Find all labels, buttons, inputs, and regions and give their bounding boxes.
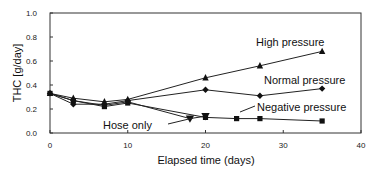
annotation-negative-pressure: Negative pressure bbox=[257, 101, 346, 113]
square-marker-icon bbox=[125, 100, 130, 105]
negative-pressure-pointer bbox=[240, 106, 255, 112]
square-marker-icon bbox=[71, 98, 76, 103]
y-tick-label: 0.6 bbox=[26, 57, 38, 66]
diamond-marker-icon bbox=[319, 85, 325, 91]
annotation-normal-pressure: Normal pressure bbox=[264, 74, 345, 86]
y-axis-label: THC [g/day] bbox=[11, 44, 23, 103]
square-marker-icon bbox=[47, 91, 52, 96]
square-marker-icon bbox=[234, 116, 239, 121]
y-tick-label: 1.0 bbox=[26, 9, 38, 18]
diamond-marker-icon bbox=[202, 87, 208, 93]
x-tick-label: 0 bbox=[48, 141, 53, 150]
diamond-marker-icon bbox=[257, 93, 263, 99]
x-tick-label: 30 bbox=[279, 141, 288, 150]
y-tick-label: 0.8 bbox=[26, 33, 38, 42]
x-tick-label: 20 bbox=[201, 141, 210, 150]
chart: 0102030400.00.20.40.60.81.0 High pressur… bbox=[0, 0, 372, 180]
series-annotations: High pressureNormal pressureNegative pre… bbox=[103, 36, 346, 131]
x-tick-label: 40 bbox=[357, 141, 366, 150]
y-tick-label: 0.2 bbox=[26, 105, 38, 114]
x-tick-label: 10 bbox=[123, 141, 132, 150]
y-tick-label: 0.4 bbox=[26, 81, 38, 90]
square-marker-icon bbox=[320, 118, 325, 123]
triangle-marker-icon bbox=[319, 48, 325, 54]
y-tick-label: 0.0 bbox=[26, 129, 38, 138]
annotation-high-pressure: High pressure bbox=[256, 36, 324, 48]
square-marker-icon bbox=[257, 116, 262, 121]
x-axis-label: Elapsed time (days) bbox=[157, 154, 254, 166]
square-marker-icon bbox=[102, 104, 107, 109]
annotation-hose-only: Hose only bbox=[103, 119, 152, 131]
